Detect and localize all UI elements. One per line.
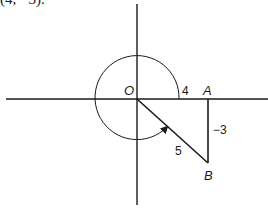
segment-ob [137,99,208,163]
trig-diagram: O 4 A −3 5 B [0,0,268,211]
y-value-label: −3 [213,123,227,137]
origin-label: O [124,83,134,98]
point-a-label: A [202,83,212,98]
point-b-label: B [204,168,213,183]
x-value-label: 4 [182,84,189,98]
hypotenuse-label: 5 [175,144,182,158]
